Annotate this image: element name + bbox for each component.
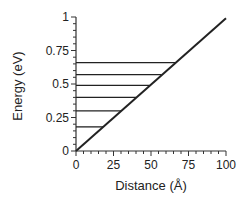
y-tick-label: 0.75 [46,44,70,58]
y-axis: 00.250.50.751 [46,10,76,158]
x-tick-label: 100 [216,158,236,172]
y-tick-label: 0.25 [46,111,70,125]
y-tick-label: 0.5 [52,77,69,91]
x-axis-label: Distance (Å) [115,178,187,193]
energy-distance-chart: 00.250.50.751 0255075100 Energy (eV) Dis… [0,0,252,206]
y-axis-label: Energy (eV) [10,51,25,120]
diagonal-line [76,18,226,151]
y-tick-label: 1 [62,10,69,24]
x-tick-label: 25 [107,158,121,172]
x-axis: 0255075100 [73,151,237,172]
x-tick-label: 50 [144,158,158,172]
energy-levels [76,63,175,127]
x-tick-label: 75 [182,158,196,172]
y-tick-label: 0 [62,144,69,158]
x-tick-label: 0 [73,158,80,172]
data-series [76,18,226,151]
